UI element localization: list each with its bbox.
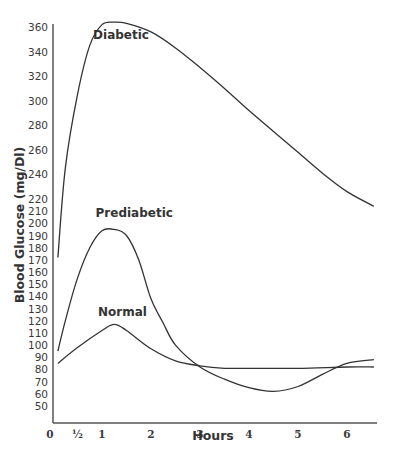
x-tick-label: 0 (46, 428, 53, 440)
normal-curve (58, 324, 374, 368)
y-tick-label: 120 (28, 315, 48, 327)
y-tick-label: 180 (28, 242, 48, 254)
x-tick-label: 5 (294, 428, 301, 440)
x-tick-label: 6 (343, 428, 350, 440)
y-tick-label: 50 (35, 400, 48, 412)
normal-label: Normal (98, 305, 147, 319)
y-tick-label: 190 (28, 230, 48, 242)
x-tick-label: ½ (72, 428, 83, 440)
y-tick-label: 220 (28, 193, 48, 205)
y-tick-label: 280 (28, 119, 48, 131)
x-tick-label: 1 (98, 428, 105, 440)
y-tick-label: 80 (35, 363, 48, 375)
prediabetic-label: Prediabetic (96, 206, 173, 220)
y-tick-label: 90 (35, 351, 48, 363)
glucose-chart: 3603403203002802602402202102001901801701… (0, 0, 394, 450)
y-tick-label: 260 (28, 144, 48, 156)
y-tick-label: 110 (28, 327, 48, 339)
x-tick-label: 2 (147, 428, 154, 440)
x-axis-title: Hours (192, 428, 234, 443)
y-axis-title: Blood Glucose (mg/Dl) (12, 147, 27, 304)
y-tick-label: 170 (28, 254, 48, 266)
y-tick-label: 340 (28, 46, 48, 58)
diabetic-label: Diabetic (93, 28, 149, 42)
y-tick-label: 150 (28, 278, 48, 290)
y-tick-label: 60 (35, 388, 48, 400)
x-tick-label: 4 (245, 428, 252, 440)
y-tick-label: 240 (28, 168, 48, 180)
y-tick-label: 360 (28, 21, 48, 33)
y-tick-label: 200 (28, 217, 48, 229)
y-tick-label: 130 (28, 303, 48, 315)
y-tick-label: 160 (28, 266, 48, 278)
y-tick-label: 320 (28, 70, 48, 82)
y-tick-label: 300 (28, 95, 48, 107)
series-labels: DiabeticPrediabeticNormal (93, 28, 173, 319)
y-tick-label: 210 (28, 205, 48, 217)
y-tick-label: 100 (28, 339, 48, 351)
diabetic-curve (58, 22, 374, 257)
y-axis-ticks: 3603403203002802602402202102001901801701… (28, 21, 48, 412)
y-tick-label: 140 (28, 290, 48, 302)
y-tick-label: 70 (35, 376, 48, 388)
